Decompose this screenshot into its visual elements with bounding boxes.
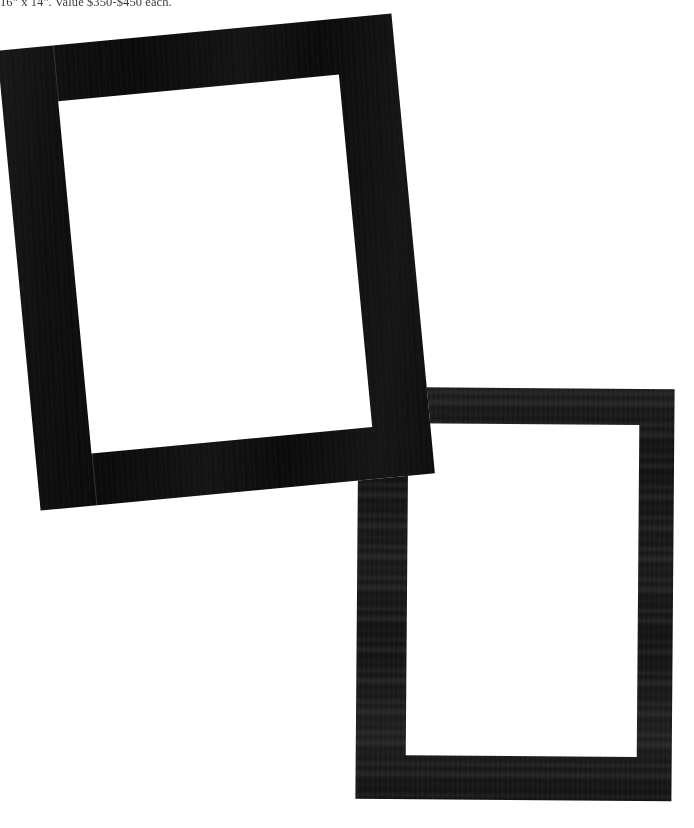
frame-molding-upper-left bbox=[0, 13, 435, 510]
picture-frame-upper-left bbox=[0, 13, 435, 510]
catalog-caption: 16" x 14". Value $350-$450 each. bbox=[0, 0, 400, 10]
photograph-plate bbox=[0, 0, 694, 828]
